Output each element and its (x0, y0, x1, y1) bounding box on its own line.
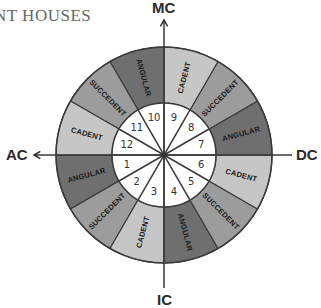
house-wheel: ANGULARSUCCEDENTCADENTANGULARSUCCEDENTCA… (0, 0, 321, 308)
axis-label-mc: MC (152, 0, 175, 16)
house-number-12: 12 (120, 139, 133, 150)
house-number-8: 8 (188, 122, 194, 133)
axis-label-ac: AC (6, 146, 28, 163)
house-number-7: 7 (198, 139, 204, 150)
house-number-5: 5 (188, 176, 194, 187)
axis-label-dc: DC (296, 146, 318, 163)
axis-label-ic: IC (157, 291, 172, 308)
house-number-9: 9 (171, 112, 177, 123)
house-number-1: 1 (124, 159, 130, 170)
house-number-10: 10 (148, 112, 161, 123)
center-point (162, 153, 167, 158)
house-number-6: 6 (198, 159, 204, 170)
house-number-4: 4 (171, 186, 177, 197)
house-number-3: 3 (151, 186, 157, 197)
house-number-11: 11 (130, 122, 143, 133)
house-number-2: 2 (134, 176, 140, 187)
